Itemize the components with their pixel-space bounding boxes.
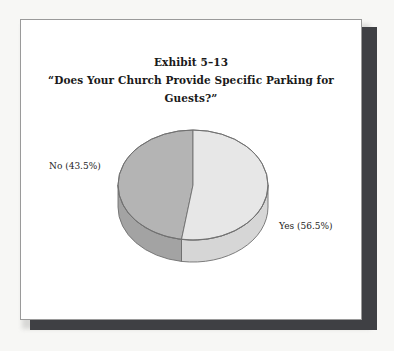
pie-chart-3d [103, 128, 283, 278]
document-sheet: Exhibit 5–13 “Does Your Church Provide S… [20, 19, 362, 320]
pie-chart-area: No (43.5%) Yes (56.5%) [21, 20, 363, 321]
pie-label-no: No (43.5%) [49, 161, 101, 171]
pie-label-yes: Yes (56.5%) [279, 221, 333, 231]
